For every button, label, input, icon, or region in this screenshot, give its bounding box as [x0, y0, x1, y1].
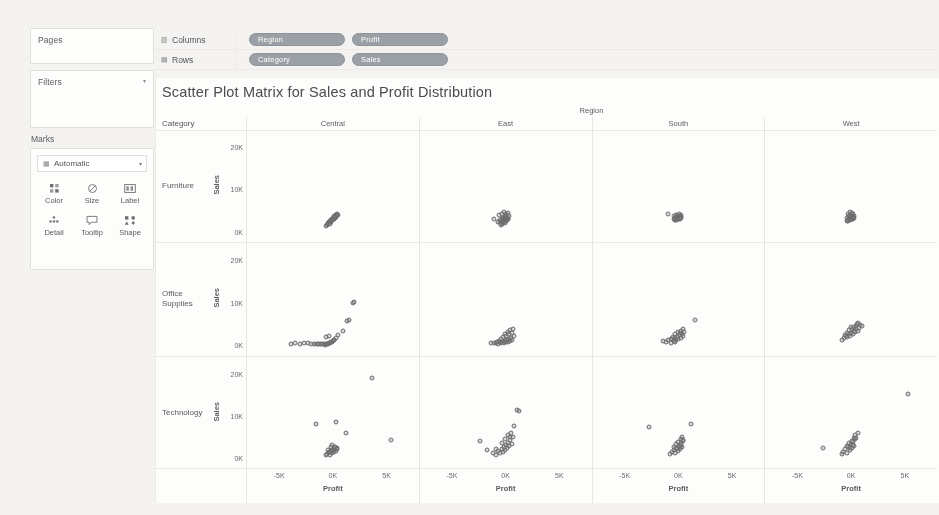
scatter-point[interactable]	[668, 452, 673, 457]
marks-card-title: Marks	[30, 134, 154, 148]
scatter-point[interactable]	[680, 437, 685, 442]
scatter-point[interactable]	[688, 422, 693, 427]
scatter-point[interactable]	[509, 441, 514, 446]
columns-shelf[interactable]: ▥ Columns Region Profit	[155, 30, 938, 50]
rows-shelf[interactable]: ▤ Rows Category Sales	[155, 50, 938, 70]
scatter-point[interactable]	[839, 451, 844, 456]
scatter-point[interactable]	[507, 434, 512, 439]
scatter-point[interactable]	[678, 216, 683, 221]
scatter-point[interactable]	[510, 326, 515, 331]
row-header-furniture[interactable]: Furniture	[156, 181, 208, 191]
panel-technology-west[interactable]	[764, 357, 937, 469]
scatter-point[interactable]	[848, 324, 853, 329]
x-axis-title: Profit	[593, 484, 765, 493]
scatter-point[interactable]	[332, 445, 337, 450]
page-title: Scatter Plot Matrix for Sales and Profit…	[156, 78, 939, 104]
scatter-point[interactable]	[854, 436, 859, 441]
y-axis-tick-label: 0K	[217, 342, 243, 349]
scatter-point[interactable]	[477, 438, 482, 443]
scatter-point[interactable]	[333, 215, 338, 220]
panel-technology-south[interactable]	[592, 357, 765, 469]
chevron-down-icon[interactable]: ▾	[143, 78, 146, 84]
panel-technology-central[interactable]	[246, 357, 419, 469]
scatter-point[interactable]	[344, 431, 349, 436]
chevron-down-icon[interactable]: ▾	[139, 160, 142, 167]
scatter-point[interactable]	[484, 448, 489, 453]
scatter-point[interactable]	[859, 324, 864, 329]
tooltip-icon	[86, 214, 98, 226]
y-axis-tick-label: 0K	[217, 455, 243, 462]
scatter-point[interactable]	[352, 299, 357, 304]
scatter-point[interactable]	[846, 219, 851, 224]
scatter-point[interactable]	[517, 409, 522, 414]
scatter-point[interactable]	[326, 222, 331, 227]
visualization-canvas: Scatter Plot Matrix for Sales and Profit…	[155, 78, 939, 503]
panel-office-supplies-south[interactable]	[592, 243, 765, 355]
marks-detail-button[interactable]: Detail	[35, 210, 73, 240]
scatter-point[interactable]	[509, 331, 514, 336]
panel-office-supplies-west[interactable]	[764, 243, 937, 355]
scatter-point[interactable]	[313, 421, 318, 426]
scatter-point[interactable]	[346, 318, 351, 323]
scatter-point[interactable]	[511, 424, 516, 429]
scatter-point[interactable]	[665, 211, 670, 216]
x-axis-title: Profit	[420, 484, 592, 493]
scatter-point[interactable]	[906, 392, 911, 397]
scatter-point[interactable]	[388, 437, 393, 442]
pages-card[interactable]: Pages	[30, 28, 154, 64]
pill-region[interactable]: Region	[249, 33, 345, 46]
scatter-point[interactable]	[842, 333, 847, 338]
panel-office-supplies-central[interactable]	[246, 243, 419, 355]
scatter-point[interactable]	[502, 220, 507, 225]
marks-label-button[interactable]: Label	[111, 178, 149, 208]
marks-shape-button[interactable]: Shape	[111, 210, 149, 240]
scatter-point[interactable]	[500, 441, 505, 446]
column-header-west[interactable]: West	[764, 117, 937, 130]
panel-furniture-east[interactable]	[419, 130, 592, 242]
marks-tooltip-button[interactable]: Tooltip	[73, 210, 111, 240]
marks-detail-label: Detail	[44, 228, 63, 237]
row-header-office-supplies[interactable]: Office Supplies	[156, 289, 208, 309]
panel-technology-east[interactable]	[419, 357, 592, 469]
scatter-point[interactable]	[508, 430, 513, 435]
pill-category[interactable]: Category	[249, 53, 345, 66]
scatter-point[interactable]	[855, 430, 860, 435]
panel-furniture-west[interactable]	[764, 130, 937, 242]
column-header-south[interactable]: South	[592, 117, 765, 130]
mark-type-selector[interactable]: ▦ Automatic ▾	[37, 155, 147, 172]
scatter-point[interactable]	[821, 445, 826, 450]
scatter-point[interactable]	[848, 446, 853, 451]
scatter-point[interactable]	[678, 443, 683, 448]
panel-furniture-south[interactable]	[592, 130, 765, 242]
scatter-point[interactable]	[647, 425, 652, 430]
panel-furniture-central[interactable]	[246, 130, 419, 242]
rows-shelf-label: ▤ Rows	[155, 50, 237, 69]
scatter-point[interactable]	[673, 340, 678, 345]
scatter-point[interactable]	[333, 419, 338, 424]
scatter-point[interactable]	[693, 318, 698, 323]
y-axis-tick-label: 20K	[217, 370, 243, 377]
scatter-point[interactable]	[326, 334, 331, 339]
scatter-point[interactable]	[340, 329, 345, 334]
pill-sales[interactable]: Sales	[352, 53, 448, 66]
column-header-central[interactable]: Central	[246, 117, 419, 130]
filters-card[interactable]: Filters ▾	[30, 70, 154, 128]
marks-type-icon: ▦	[43, 160, 50, 168]
row-header-technology[interactable]: Technology	[156, 408, 208, 418]
mark-type-label: Automatic	[54, 159, 90, 168]
marks-card[interactable]: ▦ Automatic ▾ Color	[30, 148, 154, 270]
marks-size-button[interactable]: Size	[73, 178, 111, 208]
scatter-point[interactable]	[369, 376, 374, 381]
column-header-east[interactable]: East	[419, 117, 592, 130]
color-icon	[49, 182, 60, 194]
x-axis-tick-label: -5K	[274, 472, 285, 479]
x-axis-south: -5K0K5KProfit	[592, 469, 765, 503]
scatter-point[interactable]	[851, 215, 856, 220]
scatter-point[interactable]	[494, 339, 499, 344]
pill-profit[interactable]: Profit	[352, 33, 448, 46]
scatter-point[interactable]	[680, 327, 685, 332]
scatter-point[interactable]	[324, 453, 329, 458]
panel-office-supplies-east[interactable]	[419, 243, 592, 355]
scatter-point[interactable]	[493, 447, 498, 452]
marks-color-button[interactable]: Color	[35, 178, 73, 208]
